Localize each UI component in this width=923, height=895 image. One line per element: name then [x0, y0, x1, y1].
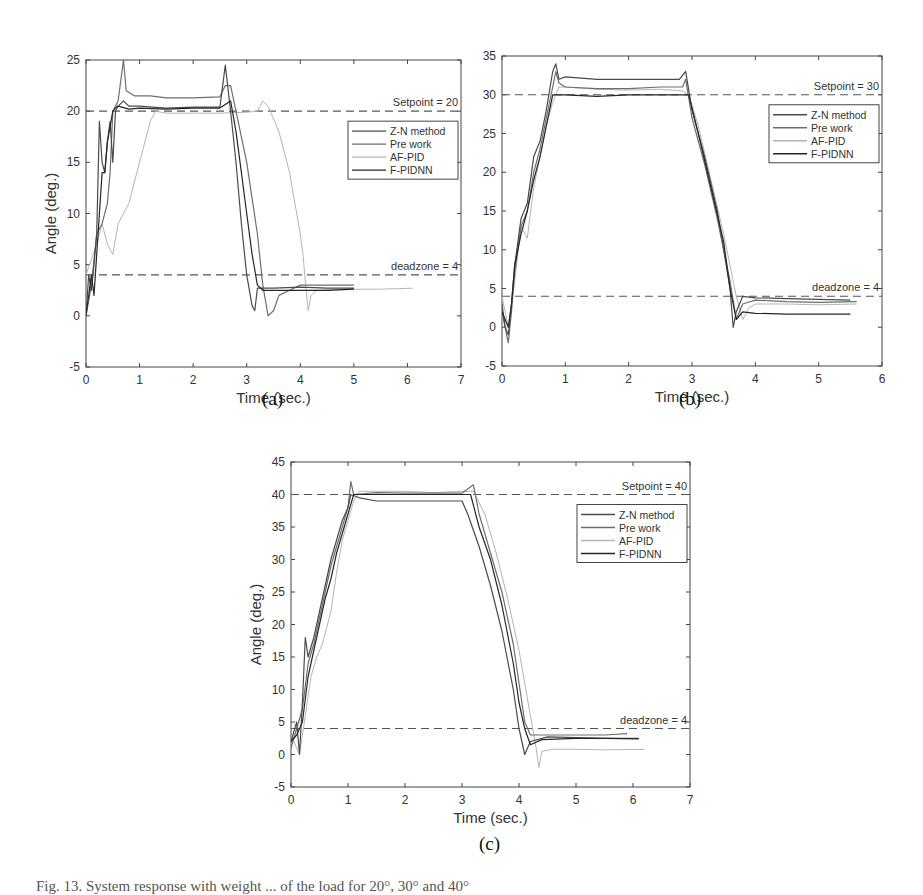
y-tick-label: 45 — [272, 455, 286, 469]
y-tick-label: 15 — [67, 155, 81, 169]
x-tick-label: 1 — [562, 372, 569, 386]
y-tick-label: 25 — [272, 585, 286, 599]
legend-label-af: AF-PID — [390, 151, 425, 163]
x-tick-label: 7 — [687, 793, 694, 807]
chart-panel-c: 01234567-5051015202530354045Time (sec.)A… — [230, 440, 700, 860]
chart-panel-b: 0123456-505101520253035Time (sec.)Setpoi… — [460, 0, 923, 430]
y-tick-label: 15 — [483, 204, 497, 218]
x-tick-label: 4 — [297, 373, 304, 387]
x-tick-label: 0 — [83, 373, 90, 387]
x-tick-label: 5 — [815, 372, 822, 386]
figure-caption: Fig. 13. System response with weight ...… — [36, 878, 469, 895]
plot-area — [502, 56, 882, 366]
annotation-label: Setpoint = 20 — [393, 96, 458, 108]
legend-label-zn: Z-N method — [390, 125, 446, 137]
x-tick-label: 3 — [243, 373, 250, 387]
x-tick-label: 1 — [136, 373, 143, 387]
legend-label-zn: Z-N method — [811, 109, 867, 121]
x-tick-label: 2 — [402, 793, 409, 807]
y-tick-label: 25 — [67, 53, 81, 67]
chart-b-svg: 0123456-505101520253035Time (sec.)Setpoi… — [460, 0, 923, 430]
y-tick-label: 10 — [483, 243, 497, 257]
y-tick-label: 40 — [272, 488, 286, 502]
y-tick-label: 0 — [278, 748, 285, 762]
y-tick-label: 20 — [483, 165, 497, 179]
y-tick-label: 10 — [272, 683, 286, 697]
y-tick-label: -5 — [274, 780, 285, 794]
y-tick-label: 10 — [67, 207, 81, 221]
y-tick-label: 5 — [73, 258, 80, 272]
x-tick-label: 6 — [879, 372, 886, 386]
x-tick-label: 2 — [625, 372, 632, 386]
legend-label-fpidnn: F-PIDNN — [390, 164, 433, 176]
y-tick-label: 0 — [489, 320, 496, 334]
y-tick-label: 5 — [489, 282, 496, 296]
annotation-label: Setpoint = 30 — [814, 80, 879, 92]
y-tick-label: 25 — [483, 127, 497, 141]
y-tick-label: 35 — [483, 49, 497, 63]
legend-label-pre: Pre work — [811, 122, 853, 134]
subcaption-a: (a) — [262, 388, 283, 410]
x-tick-label: 6 — [404, 373, 411, 387]
y-tick-label: 15 — [272, 650, 286, 664]
y-tick-label: 20 — [272, 618, 286, 632]
chart-panel-a: 01234567-50510152025Time (sec.)Angle (de… — [0, 0, 470, 430]
y-tick-label: -5 — [69, 360, 80, 374]
x-axis-label: Time (sec.) — [453, 809, 527, 826]
y-tick-label: 0 — [73, 309, 80, 323]
y-axis-label: Angle (deg.) — [42, 173, 59, 255]
y-tick-label: -5 — [485, 359, 496, 373]
y-axis-label: Angle (deg.) — [247, 584, 264, 666]
y-tick-label: 30 — [272, 553, 286, 567]
x-tick-label: 0 — [288, 793, 295, 807]
legend-label-pre: Pre work — [390, 138, 432, 150]
chart-c-svg: 01234567-5051015202530354045Time (sec.)A… — [230, 440, 700, 860]
legend-label-af: AF-PID — [619, 535, 654, 547]
y-tick-label: 5 — [278, 715, 285, 729]
y-tick-label: 30 — [483, 88, 497, 102]
chart-a-svg: 01234567-50510152025Time (sec.)Angle (de… — [0, 0, 470, 430]
subcaption-b: (b) — [679, 388, 701, 410]
x-tick-label: 0 — [499, 372, 506, 386]
x-tick-label: 2 — [190, 373, 197, 387]
x-tick-label: 5 — [351, 373, 358, 387]
x-tick-label: 5 — [573, 793, 580, 807]
legend-label-af: AF-PID — [811, 135, 846, 147]
annotation-label: deadzone = 4 — [812, 281, 879, 293]
annotation-label: deadzone = 4 — [620, 714, 687, 726]
legend-label-zn: Z-N method — [619, 509, 675, 521]
legend-label-pre: Pre work — [619, 522, 661, 534]
x-tick-label: 4 — [516, 793, 523, 807]
legend-label-fpidnn: F-PIDNN — [811, 148, 854, 160]
y-tick-label: 20 — [67, 104, 81, 118]
x-tick-label: 4 — [752, 372, 759, 386]
annotation-label: deadzone = 4 — [391, 260, 458, 272]
x-tick-label: 6 — [630, 793, 637, 807]
subcaption-c: (c) — [479, 833, 500, 855]
y-tick-label: 35 — [272, 520, 286, 534]
annotation-label: Setpoint = 40 — [622, 480, 687, 492]
x-tick-label: 3 — [459, 793, 466, 807]
x-tick-label: 3 — [689, 372, 696, 386]
x-tick-label: 1 — [345, 793, 352, 807]
legend-label-fpidnn: F-PIDNN — [619, 548, 662, 560]
